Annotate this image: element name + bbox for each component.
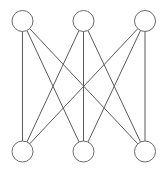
node-t1 xyxy=(12,11,33,32)
node-b1 xyxy=(12,141,33,162)
node-b2 xyxy=(73,141,94,162)
node-b3 xyxy=(135,141,156,162)
k33-graph-diagram xyxy=(0,0,166,169)
node-t3 xyxy=(135,11,156,32)
node-t2 xyxy=(73,11,94,32)
edge-layer xyxy=(23,29,146,144)
